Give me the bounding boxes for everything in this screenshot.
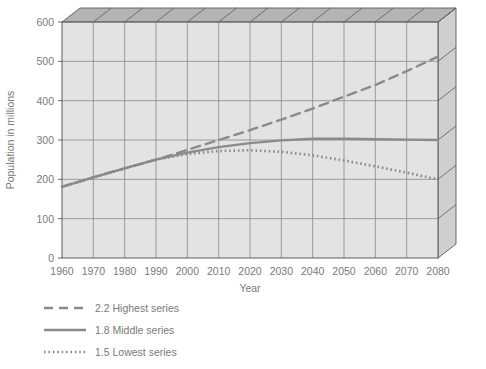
x-tick-label: 1980 [113, 265, 137, 277]
x-tick-label: 2060 [364, 265, 388, 277]
chart-legend: 2.2 Highest series1.8 Middle series1.5 L… [44, 302, 179, 358]
x-tick-label: 2050 [332, 265, 356, 277]
x-axis-tick-labels: 1960197019801990200020102020203020402050… [50, 265, 450, 277]
x-tick-label: 1990 [144, 265, 168, 277]
y-tick-label: 100 [36, 213, 54, 225]
x-tick-label: 2020 [238, 265, 262, 277]
x-tick-label: 2000 [176, 265, 200, 277]
y-tick-label: 600 [36, 16, 54, 28]
legend-label-3: 1.5 Lowest series [95, 346, 177, 358]
y-tick-label: 0 [48, 252, 54, 264]
y-axis-title: Population in millions [4, 91, 16, 190]
x-tick-label: 2080 [426, 265, 450, 277]
x-axis-title: Year [239, 282, 261, 294]
y-tick-label: 300 [36, 134, 54, 146]
x-tick-label: 2070 [395, 265, 419, 277]
x-tick-label: 1970 [82, 265, 106, 277]
x-tick-label: 2010 [207, 265, 231, 277]
y-tick-label: 200 [36, 173, 54, 185]
x-tick-label: 2030 [270, 265, 294, 277]
x-tick-label: 1960 [50, 265, 74, 277]
chart-figure: 0100200300400500600 19601970198019902000… [0, 0, 486, 369]
y-axis-tick-labels: 0100200300400500600 [36, 16, 62, 264]
legend-label-2: 1.8 Middle series [95, 324, 174, 336]
y-tick-label: 500 [36, 55, 54, 67]
x-tick-label: 2040 [301, 265, 325, 277]
y-tick-label: 400 [36, 95, 54, 107]
population-projection-chart: 0100200300400500600 19601970198019902000… [0, 0, 486, 369]
legend-label-1: 2.2 Highest series [95, 302, 179, 314]
